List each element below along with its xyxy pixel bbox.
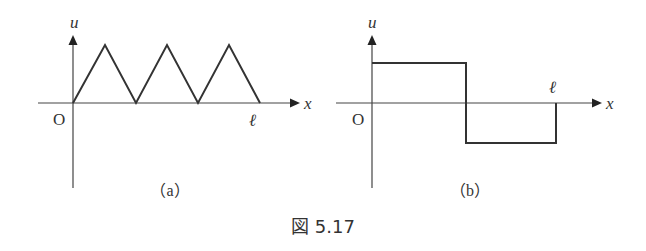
- panel-a-caption: （a）: [150, 182, 189, 199]
- panel-b-x-arrow-icon: [592, 99, 602, 108]
- panel-a-ell-label: ℓ: [249, 111, 256, 130]
- figure-caption: 図 5.17: [291, 216, 355, 237]
- panel-a-x-label: x: [303, 94, 312, 113]
- panel-a-u-label: u: [70, 13, 79, 32]
- panel-b-caption: （b）: [450, 182, 490, 199]
- panel-a-x-arrow-icon: [290, 99, 300, 108]
- figure-canvas: u x O ℓ （a） u x O ℓ （b） 図 5.17: [0, 0, 646, 251]
- panel-b: u x O ℓ （b）: [336, 13, 614, 199]
- panel-b-origin-label: O: [352, 110, 364, 129]
- panel-a: u x O ℓ （a）: [38, 13, 312, 199]
- panel-b-u-label: u: [368, 13, 377, 32]
- panel-a-triangle-wave: [73, 45, 260, 103]
- panel-a-origin-label: O: [53, 110, 65, 129]
- panel-a-y-arrow-icon: [69, 35, 78, 45]
- panel-b-ell-label: ℓ: [549, 78, 556, 97]
- panel-b-x-label: x: [605, 94, 614, 113]
- panel-b-y-arrow-icon: [368, 35, 377, 45]
